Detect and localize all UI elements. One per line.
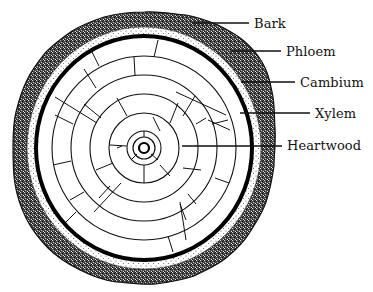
pith-core [139, 143, 149, 153]
label-phloem: Phloem [286, 45, 336, 58]
label-xylem: Xylem [315, 107, 356, 120]
label-heartwood: Heartwood [287, 139, 361, 152]
label-bark: Bark [254, 17, 286, 30]
label-cambium: Cambium [300, 76, 364, 89]
